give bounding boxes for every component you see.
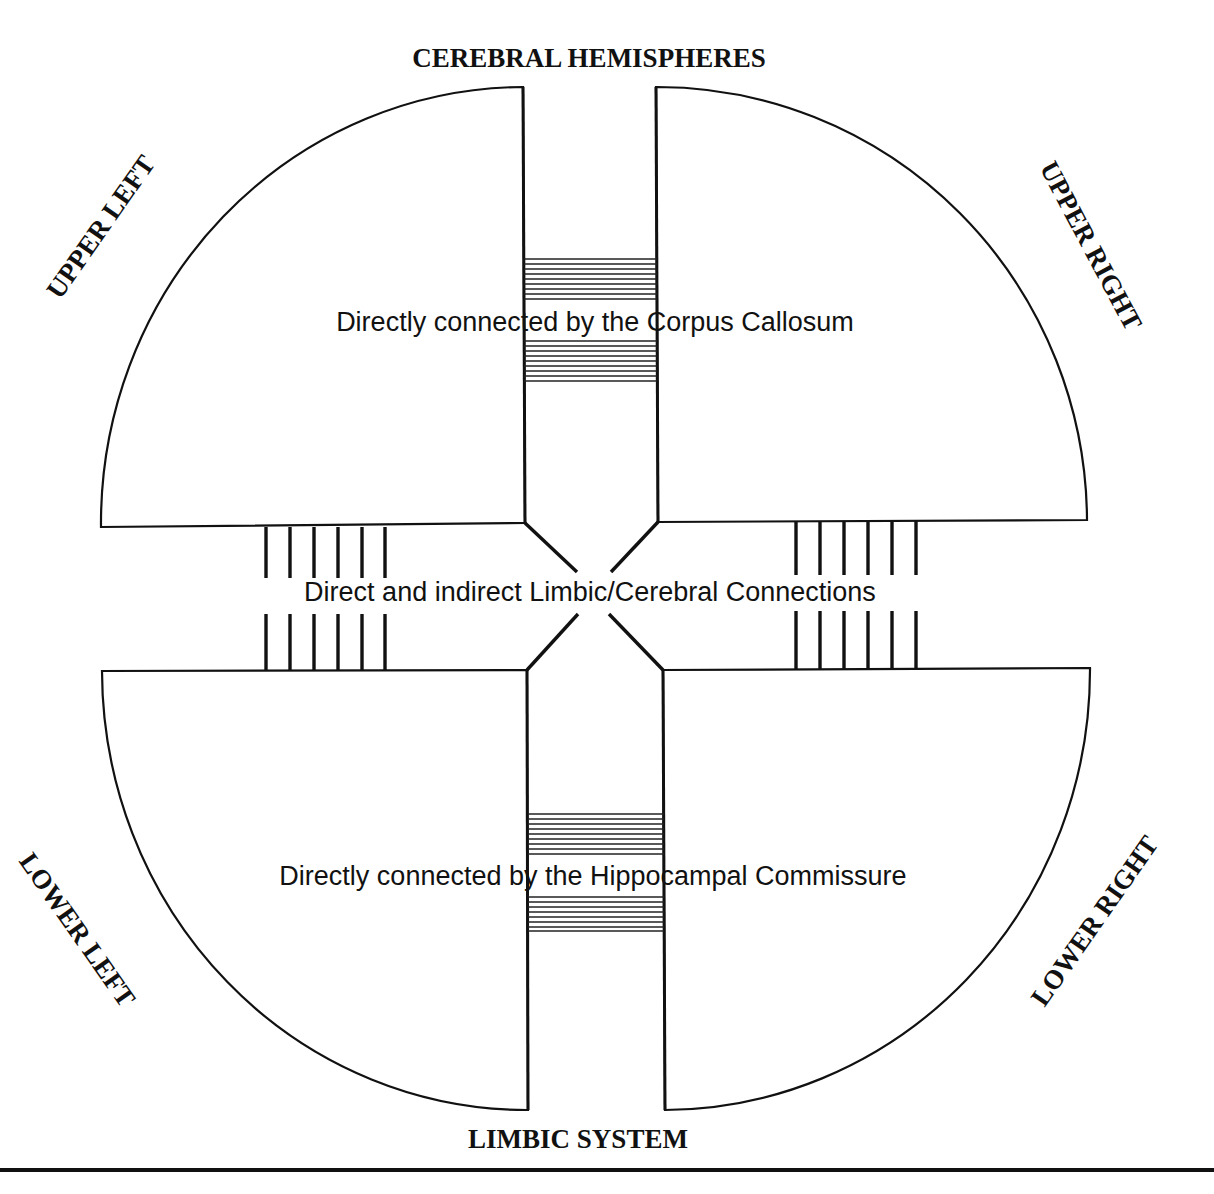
upper-right-label: UPPER RIGHT: [1034, 156, 1148, 335]
cerebral-hemispheres-title: CEREBRAL HEMISPHERES: [412, 43, 765, 73]
limbic-system-title: LIMBIC SYSTEM: [468, 1124, 688, 1154]
whole-brain-model-diagram: CEREBRAL HEMISPHERES: [0, 0, 1214, 1194]
limbic-cerebral-label: Direct and indirect Limbic/Cerebral Conn…: [304, 577, 876, 607]
lower-left-label: LOWER LEFT: [13, 847, 141, 1012]
upper-left-label: UPPER LEFT: [40, 150, 161, 304]
upper-right-quadrant: [656, 87, 1087, 522]
hippocampal-commissure-label: Directly connected by the Hippocampal Co…: [279, 861, 906, 891]
corpus-callosum-label: Directly connected by the Corpus Callosu…: [336, 307, 854, 337]
